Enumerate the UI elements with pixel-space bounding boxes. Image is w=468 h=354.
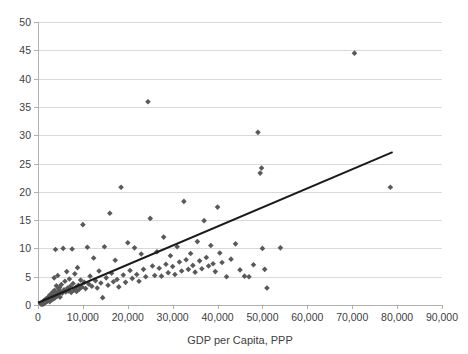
x-tick-label: 50,000 xyxy=(246,311,278,323)
x-tick-label: 70,000 xyxy=(336,311,368,323)
trend-line xyxy=(38,152,393,303)
y-tick-label: 50 xyxy=(19,16,31,28)
x-tick-label: 30,000 xyxy=(157,311,189,323)
y-tick-label: 10 xyxy=(19,242,31,254)
y-tick-label: 30 xyxy=(19,129,31,141)
y-tick-label: 35 xyxy=(19,101,31,113)
y-axis-tick-labels: 05101520253035404550 xyxy=(19,16,31,311)
x-tick-label: 90,000 xyxy=(426,311,458,323)
x-tick-label: 20,000 xyxy=(112,311,144,323)
x-axis-tick-labels: 010,00020,00030,00040,00050,00060,00070,… xyxy=(35,311,458,323)
gridlines xyxy=(38,23,442,278)
x-tick-label: 0 xyxy=(35,311,41,323)
y-tick-label: 40 xyxy=(19,73,31,85)
data-points xyxy=(38,50,393,307)
x-tick-label: 60,000 xyxy=(291,311,323,323)
y-tick-label: 45 xyxy=(19,44,31,56)
y-tick-label: 25 xyxy=(19,158,31,170)
x-axis-title: GDP per Capita, PPP xyxy=(187,334,293,346)
y-tick-label: 5 xyxy=(25,271,31,283)
scatter-chart: 05101520253035404550 010,00020,00030,000… xyxy=(0,0,468,354)
y-tick-label: 0 xyxy=(25,299,31,311)
axis-lines xyxy=(34,22,443,309)
chart-canvas: 05101520253035404550 010,00020,00030,000… xyxy=(0,0,468,354)
y-tick-label: 15 xyxy=(19,214,31,226)
y-tick-label: 20 xyxy=(19,186,31,198)
x-tick-label: 80,000 xyxy=(381,311,413,323)
x-tick-label: 10,000 xyxy=(67,311,99,323)
x-tick-label: 40,000 xyxy=(201,311,233,323)
